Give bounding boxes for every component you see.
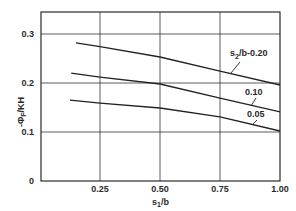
chart: 00.10.20.3 0.250.500.751.00 -ΦF/KH s1/b … [0, 0, 296, 211]
y-tick-label: 0.1 [21, 127, 34, 137]
x-axis-label: s1/b [152, 197, 169, 208]
y-axis-label: -ΦF/KH [16, 97, 27, 127]
x-axis-ticks: 0.250.500.751.00 [91, 184, 289, 194]
series-label-005: 0.05 [247, 109, 265, 119]
leader-line-010 [251, 98, 256, 106]
leader-line-020 [231, 62, 240, 73]
x-tick-label: 0.75 [211, 184, 229, 194]
series-label-s2b-020: s2/b-0.20 [230, 48, 267, 60]
y-tick-label: 0.3 [21, 29, 34, 39]
series-label-010: 0.10 [245, 87, 263, 97]
leader-line-005 [252, 120, 257, 125]
x-tick-label: 1.00 [271, 184, 289, 194]
x-tick-label: 0.25 [91, 184, 109, 194]
y-tick-label: 0.2 [21, 78, 34, 88]
y-tick-label: 0 [29, 176, 34, 186]
x-tick-label: 0.50 [151, 184, 169, 194]
